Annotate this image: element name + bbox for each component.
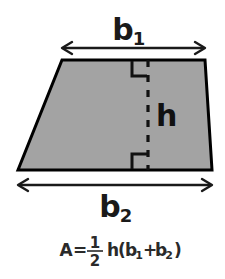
bottom-base-label-subscript: 2 xyxy=(120,205,133,226)
formula-fraction-numerator: 1 xyxy=(90,234,100,252)
height-label: h xyxy=(156,98,177,133)
top-base-label-letter: b xyxy=(112,12,133,47)
top-base-label-subscript: 1 xyxy=(133,28,146,49)
bottom-base-label-letter: b xyxy=(99,189,120,224)
formula-equals-sign: = xyxy=(73,240,87,260)
formula-fraction-denominator: 2 xyxy=(90,252,100,270)
formula-term1-subscript: 1 xyxy=(135,249,143,262)
formula-term2-subscript: 2 xyxy=(165,249,173,262)
formula-close-paren: ) xyxy=(174,240,182,260)
figure-canvas: b 1 h b 2 A xyxy=(0,0,225,279)
trapezoid-figure: b 1 h b 2 A xyxy=(0,0,225,279)
formula-area-symbol: A xyxy=(59,240,73,260)
